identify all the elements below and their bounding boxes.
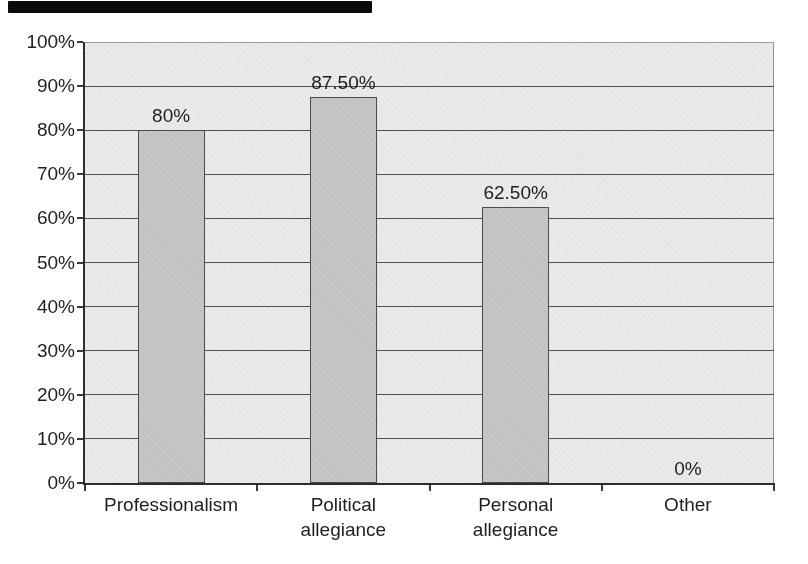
gridline: [85, 86, 774, 87]
x-tick-mark: [429, 485, 431, 491]
bar-personal-allegiance: [482, 207, 549, 483]
category-label-personal-allegiance: Personalallegiance: [430, 492, 602, 542]
y-tick-label: 80%: [0, 118, 75, 142]
category-label-line: Professionalism: [85, 492, 257, 517]
category-label-line: Political: [257, 492, 429, 517]
bar-value-label-other: 0%: [674, 457, 701, 481]
y-tick-mark: [77, 350, 83, 352]
bar-value-label-political-allegiance: 87.50%: [311, 71, 375, 95]
x-tick-mark: [256, 485, 258, 491]
y-tick-label: 40%: [0, 295, 75, 319]
category-label-other: Other: [602, 492, 774, 517]
y-tick-mark: [77, 85, 83, 87]
category-label-political-allegiance: Politicalallegiance: [257, 492, 429, 542]
category-label-line: Other: [602, 492, 774, 517]
y-tick-label: 90%: [0, 74, 75, 98]
y-tick-mark: [77, 173, 83, 175]
y-tick-mark: [77, 129, 83, 131]
category-label-line: Personal: [430, 492, 602, 517]
y-tick-label: 70%: [0, 162, 75, 186]
category-label-line: allegiance: [257, 517, 429, 542]
bar-political-allegiance: [310, 97, 377, 483]
y-tick-label: 20%: [0, 383, 75, 407]
y-tick-mark: [77, 217, 83, 219]
x-tick-mark: [601, 485, 603, 491]
y-tick-mark: [77, 41, 83, 43]
category-label-professionalism: Professionalism: [85, 492, 257, 517]
y-tick-mark: [77, 438, 83, 440]
x-tick-mark: [773, 485, 775, 491]
category-label-line: allegiance: [430, 517, 602, 542]
y-tick-mark: [77, 262, 83, 264]
y-tick-mark: [77, 482, 83, 484]
y-tick-label: 10%: [0, 427, 75, 451]
y-tick-label: 60%: [0, 206, 75, 230]
y-tick-mark: [77, 306, 83, 308]
bar-chart: 100%90%80%70%60%50%40%30%20%10%0%80%Prof…: [0, 0, 808, 564]
scan-artifact-bar: [8, 1, 372, 13]
y-tick-label: 30%: [0, 339, 75, 363]
bar-value-label-personal-allegiance: 62.50%: [483, 181, 547, 205]
y-tick-label: 100%: [0, 30, 75, 54]
bar-professionalism: [138, 130, 205, 483]
bar-value-label-professionalism: 80%: [152, 104, 190, 128]
y-tick-mark: [77, 394, 83, 396]
y-tick-label: 50%: [0, 251, 75, 275]
y-tick-label: 0%: [0, 471, 75, 495]
x-tick-mark: [84, 485, 86, 491]
y-axis-line: [83, 42, 85, 485]
